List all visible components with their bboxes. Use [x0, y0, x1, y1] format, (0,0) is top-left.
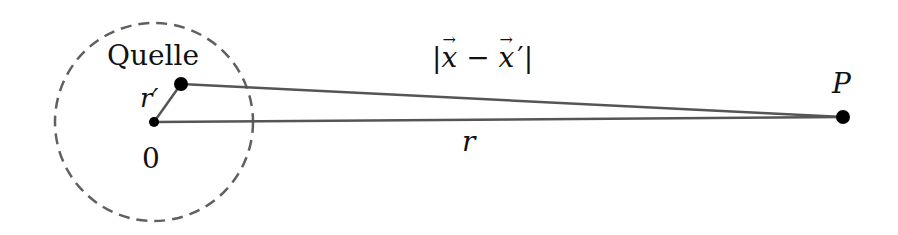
source-label: Quelle	[107, 42, 199, 70]
x-vector: x	[441, 44, 457, 72]
p-point	[836, 110, 850, 124]
source-point	[174, 77, 188, 91]
x-prime-vector: x	[499, 44, 515, 72]
r-prime-label: r′	[140, 85, 158, 111]
r-label: r	[462, 128, 475, 156]
abs-close: |	[524, 41, 533, 74]
distance-label: |x − x′|	[432, 44, 533, 72]
abs-open: |	[432, 41, 441, 74]
p-label: P	[832, 70, 851, 98]
r-line	[154, 117, 843, 122]
origin-label: 0	[142, 145, 160, 173]
minus-sign: −	[466, 41, 489, 74]
origin-point	[149, 117, 159, 127]
distance-line	[181, 84, 843, 117]
